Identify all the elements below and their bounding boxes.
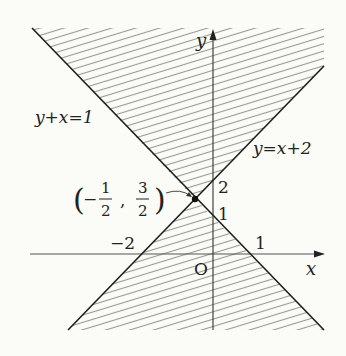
x-axis-arrow-icon bbox=[314, 251, 325, 258]
comma: , bbox=[120, 190, 125, 210]
paren-close: ) bbox=[154, 182, 166, 217]
x-numerator: 1 bbox=[101, 179, 111, 197]
y-numerator: 3 bbox=[138, 179, 148, 197]
graph-canvas: y x O y+x=1 y=x+2 −2 1 2 1 ( − 1 2 , 3 2… bbox=[0, 0, 346, 356]
minus-sign: − bbox=[83, 189, 97, 209]
y-tick-2: 2 bbox=[218, 177, 229, 197]
intersection-label: ( − 1 2 , 3 2 ) bbox=[73, 179, 166, 220]
graph-figure: y x O y+x=1 y=x+2 −2 1 2 1 ( − 1 2 , 3 2… bbox=[0, 0, 346, 356]
intersection-point bbox=[192, 196, 198, 202]
x-tick-1: 1 bbox=[255, 233, 266, 253]
y-axis-label: y bbox=[195, 30, 207, 51]
origin-label: O bbox=[194, 259, 208, 279]
x-axis-label: x bbox=[306, 258, 316, 279]
line1-label: y+x=1 bbox=[34, 107, 94, 127]
x-tick-minus-2: −2 bbox=[110, 233, 135, 253]
y-tick-1: 1 bbox=[218, 204, 229, 224]
line2-label: y=x+2 bbox=[252, 138, 312, 158]
x-denominator: 2 bbox=[101, 202, 111, 220]
y-denominator: 2 bbox=[138, 202, 148, 220]
